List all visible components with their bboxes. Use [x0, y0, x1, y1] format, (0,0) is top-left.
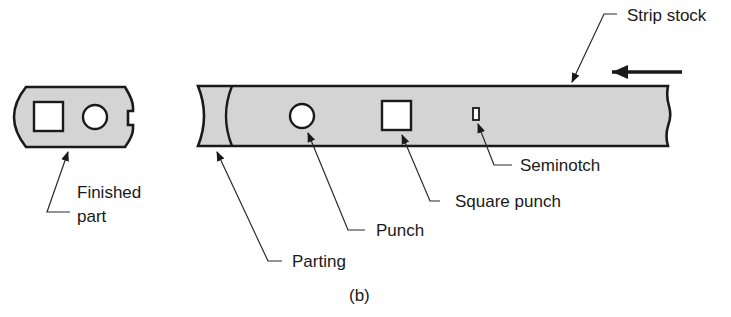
- progressive-die-diagram: Finished part Strip stock Seminotch Squa…: [0, 0, 731, 317]
- finished-part-round-hole: [83, 105, 107, 129]
- parting-leader: [217, 152, 282, 261]
- punch-leader: [308, 133, 365, 230]
- finished-part: [14, 87, 133, 147]
- finished-part-label-2: part: [77, 207, 107, 226]
- finished-part-square-hole: [34, 102, 63, 131]
- finished-part-body: [14, 87, 133, 147]
- seminotch-label: Seminotch: [520, 156, 600, 175]
- finished-part-label-1: Finished: [77, 183, 141, 202]
- square-punch-hole: [382, 101, 411, 130]
- strip-stock-leader: [572, 14, 617, 82]
- seminotch-slot: [473, 108, 479, 120]
- finished-part-leader: [47, 152, 70, 212]
- strip-stock-label: Strip stock: [627, 6, 707, 25]
- square-punch-label: Square punch: [455, 192, 561, 211]
- strip-stock-body: [198, 86, 670, 146]
- punch-hole: [290, 104, 314, 128]
- punch-label: Punch: [376, 221, 424, 240]
- figure-caption: (b): [349, 286, 370, 305]
- parting-label: Parting: [292, 252, 346, 271]
- feed-arrowhead-icon: [612, 65, 628, 79]
- strip-stock: [198, 86, 670, 146]
